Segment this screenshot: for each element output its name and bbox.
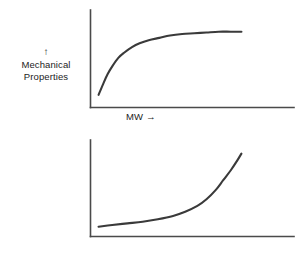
polymer-mw-property-figure: ↑ Mechanical Properties MW → ↑ Melt Visc…	[0, 0, 296, 259]
curve-mechanical-properties	[99, 32, 242, 95]
plot-canvas	[0, 0, 296, 259]
curve-melt-viscosity	[99, 154, 242, 227]
